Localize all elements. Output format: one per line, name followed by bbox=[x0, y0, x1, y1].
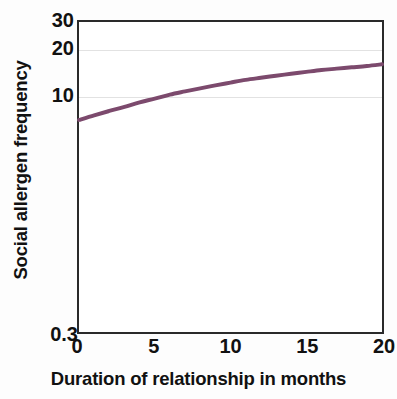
x-tick-label: 0 bbox=[71, 336, 82, 356]
x-tick-label: 15 bbox=[296, 336, 318, 356]
y-axis-title: Social allergen frequency bbox=[10, 60, 32, 279]
x-tick-label: 20 bbox=[373, 336, 395, 356]
plot-inner bbox=[79, 22, 382, 332]
y-axis-tick-labels: 3020100.3 bbox=[36, 0, 74, 399]
y-tick-label: 20 bbox=[38, 38, 74, 58]
y-tick-label: 10 bbox=[38, 85, 74, 105]
line-series-path bbox=[79, 64, 382, 120]
x-axis-title: Duration of relationship in months bbox=[0, 368, 397, 390]
chart-figure: Social allergen frequency 3020100.3 0510… bbox=[0, 0, 397, 399]
y-tick-label: 30 bbox=[38, 10, 74, 30]
line-series-svg bbox=[79, 22, 382, 332]
x-tick-label: 10 bbox=[219, 336, 241, 356]
x-axis-tick-labels: 05101520 bbox=[77, 336, 384, 362]
plot-area bbox=[77, 20, 384, 334]
x-tick-label: 5 bbox=[148, 336, 159, 356]
